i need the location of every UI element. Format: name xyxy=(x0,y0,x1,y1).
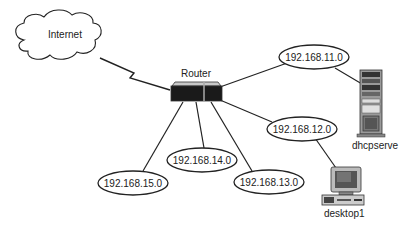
router: Router xyxy=(171,68,222,101)
link-net12-desktop xyxy=(315,138,336,168)
network-label: 192.168.15.0 xyxy=(104,178,163,189)
network-diagram: Internet Router 192.168.11.0 192.168.12.… xyxy=(0,0,407,233)
link-router-net14 xyxy=(196,102,204,148)
network-label: 192.168.13.0 xyxy=(240,177,299,188)
link-net11-server xyxy=(335,68,362,84)
cloud-label: Internet xyxy=(48,29,82,40)
workstation-label: desktop1 xyxy=(324,208,365,219)
network-node-net14: 192.168.14.0 xyxy=(167,148,237,172)
server-label: dhcpserve xyxy=(352,140,399,151)
link-router-net12 xyxy=(220,100,272,122)
network-node-net15: 192.168.15.0 xyxy=(98,171,168,195)
desktop-computer-icon xyxy=(322,167,364,205)
network-node-net12: 192.168.12.0 xyxy=(267,117,337,141)
network-label: 192.168.11.0 xyxy=(285,52,343,63)
network-node-net13: 192.168.13.0 xyxy=(234,170,304,194)
router-label: Router xyxy=(181,68,212,79)
wan-lightning-link xyxy=(100,58,170,90)
network-label: 192.168.12.0 xyxy=(273,124,332,135)
router-top xyxy=(172,82,221,86)
router-body xyxy=(171,86,222,101)
workstation-node: desktop1 xyxy=(322,167,365,219)
network-label: 192.168.14.0 xyxy=(173,155,232,166)
internet-cloud: Internet xyxy=(16,10,101,59)
server-tower-icon xyxy=(357,70,385,137)
network-node-net11: 192.168.11.0 xyxy=(279,45,349,69)
link-router-net11 xyxy=(220,62,290,87)
